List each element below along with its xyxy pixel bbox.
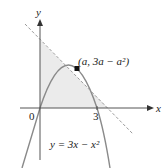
origin-label: 0 xyxy=(29,110,35,122)
x-tick-label: 3 xyxy=(93,110,99,122)
curve-equation-label: y = 3x − x² xyxy=(49,138,100,150)
x-axis-arrow-icon xyxy=(147,105,154,111)
tangent-line-diagram: y x 0 3 (a, 3a − a²) y = 3x − x² xyxy=(0,0,166,168)
y-axis-label: y xyxy=(35,6,41,18)
tangency-point-label: (a, 3a − a²) xyxy=(78,55,129,68)
y-axis-arrow-icon xyxy=(37,19,43,26)
x-axis-label: x xyxy=(155,102,161,114)
